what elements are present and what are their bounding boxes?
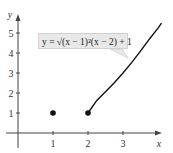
x-axis-label: x bbox=[156, 138, 162, 149]
y-tick-label: 4 bbox=[9, 48, 14, 59]
x-tick-label: 2 bbox=[86, 138, 91, 149]
y-tick-label: 5 bbox=[9, 28, 14, 39]
y-tick-label: 3 bbox=[9, 68, 14, 79]
y-axis-arrow-icon bbox=[16, 14, 21, 21]
isolated-point bbox=[50, 110, 56, 116]
y-tick-label: 2 bbox=[9, 88, 14, 99]
formula-callout: y = √(x − 1)²(x − 2) + 1 bbox=[38, 33, 128, 49]
y-tick-label: 1 bbox=[9, 108, 14, 119]
callout-pointer bbox=[110, 49, 128, 58]
function-graph: 1 2 3 x 1 2 3 4 5 y bbox=[0, 0, 173, 153]
x-ticks: 1 2 3 x bbox=[51, 131, 162, 149]
y-axis-label: y bbox=[7, 9, 13, 20]
x-tick-label: 3 bbox=[121, 138, 126, 149]
x-axis-arrow-icon bbox=[155, 131, 162, 136]
x-tick-label: 1 bbox=[51, 138, 56, 149]
curve-start-point bbox=[85, 110, 91, 116]
